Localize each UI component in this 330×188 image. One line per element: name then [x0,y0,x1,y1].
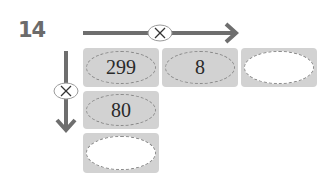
cell-80: 80 [83,91,159,129]
arrows-diagram [0,0,330,188]
cell-299: 299 [83,48,159,87]
answer-cell-row[interactable] [241,48,317,87]
value-8: 8 [165,51,235,84]
answer-cell-column[interactable] [83,133,159,173]
answer-input-column[interactable] [86,136,156,170]
vertical-arrow-icon [54,51,78,130]
value-80: 80 [86,94,156,126]
cell-8: 8 [162,48,238,87]
value-299: 299 [86,51,156,84]
answer-input-row[interactable] [244,51,314,84]
horizontal-arrow-icon [83,24,236,42]
